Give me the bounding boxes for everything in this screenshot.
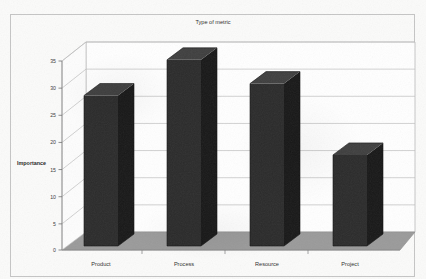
bar-project[interactable] (333, 143, 383, 246)
bar-resource[interactable] (250, 72, 300, 246)
bar-side-face (201, 48, 217, 246)
x-category-label: Process (174, 261, 194, 267)
y-tick-label: 15 (50, 167, 56, 173)
plot-left-wall (62, 42, 86, 250)
y-tick-label: 10 (50, 194, 56, 200)
bar-process[interactable] (167, 48, 217, 246)
bar-side-face (118, 84, 134, 247)
bar-chart-3d: 0 5 10 15 20 25 30 35 (0, 0, 426, 279)
bar-side-face (284, 72, 300, 246)
x-tick-marks (142, 250, 308, 254)
chart-title: Type of metric (195, 19, 230, 25)
y-tick-label: 25 (50, 112, 56, 118)
x-category-label: Product (91, 261, 111, 267)
y-tick-label: 35 (50, 58, 56, 64)
y-tick-label: 30 (50, 85, 56, 91)
y-tick-label: 20 (50, 139, 56, 145)
chart-page: 0 5 10 15 20 25 30 35 (0, 0, 426, 279)
y-tick-label: 5 (53, 221, 56, 227)
y-axis-title: Importance (17, 160, 46, 166)
bar-product[interactable] (84, 84, 134, 247)
bar-front-face (167, 60, 201, 246)
y-tick-marks (59, 61, 63, 250)
bar-front-face (333, 155, 367, 246)
x-category-label: Project (341, 261, 359, 267)
y-tick-label: 0 (53, 247, 56, 253)
x-category-labels: Product Process Resource Project (91, 261, 359, 267)
y-tick-labels: 0 5 10 15 20 25 30 35 (50, 58, 56, 253)
x-category-label: Resource (255, 261, 279, 267)
bar-side-face (367, 143, 383, 246)
bar-front-face (84, 96, 118, 247)
bar-front-face (250, 84, 284, 246)
